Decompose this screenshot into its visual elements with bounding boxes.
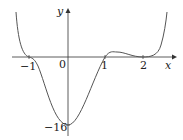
x-tick-1: 1	[101, 60, 108, 71]
y-tick-neg16: −16	[44, 122, 67, 133]
y-axis-arrow-icon	[66, 8, 71, 13]
x-tick-2: 2	[140, 60, 147, 71]
x-tick-neg1: −1	[20, 61, 36, 72]
x-axis-label: x	[165, 60, 171, 71]
function-graph: y x −1 0 1 2 −16	[0, 0, 183, 140]
x-axis-arrow-icon	[172, 55, 177, 60]
y-axis-label: y	[57, 6, 63, 17]
x-tick-0: 0	[59, 59, 66, 70]
